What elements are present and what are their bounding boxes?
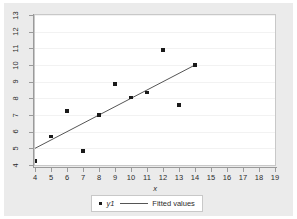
x-axis-tick-label: 4 <box>27 173 43 182</box>
x-axis-tick <box>99 168 100 172</box>
x-axis-tick-label: 13 <box>171 173 187 182</box>
data-point <box>161 48 164 51</box>
x-axis-tick-label: 12 <box>155 173 171 182</box>
x-axis-tick <box>131 168 132 172</box>
x-axis-tick-label: 18 <box>251 173 267 182</box>
fitted-values-line <box>35 65 195 148</box>
x-axis-tick-label: 8 <box>91 173 107 182</box>
x-axis-tick-label: 9 <box>107 173 123 182</box>
x-axis-tick <box>227 168 228 172</box>
data-point <box>177 103 180 106</box>
x-axis-tick-label: 7 <box>75 173 91 182</box>
gridline <box>35 165 275 166</box>
legend-entry-fitted-values[interactable]: Fitted values <box>120 199 195 208</box>
x-axis-tick <box>115 168 116 172</box>
x-axis-tick <box>51 168 52 172</box>
y-axis-tick <box>29 82 33 83</box>
y-axis-tick <box>29 115 33 116</box>
data-point <box>65 109 68 112</box>
data-point <box>145 91 148 94</box>
x-axis-tick-label: 15 <box>203 173 219 182</box>
data-point <box>193 63 196 66</box>
x-axis-tick <box>67 168 68 172</box>
legend-label-fitted-values: Fitted values <box>152 199 195 208</box>
legend-marker-icon <box>99 202 102 205</box>
x-axis-title: x <box>33 184 277 193</box>
x-axis-tick-label: 10 <box>123 173 139 182</box>
x-axis-tick-label: 11 <box>139 173 155 182</box>
x-axis-tick <box>179 168 180 172</box>
data-point <box>113 82 116 85</box>
legend-entry-y1[interactable]: y1 <box>99 199 114 208</box>
x-axis-tick <box>211 168 212 172</box>
fitted-line-layer <box>35 15 275 165</box>
data-point <box>34 159 37 162</box>
y-axis-line <box>33 14 34 167</box>
x-axis-tick <box>35 168 36 172</box>
y-axis-tick <box>29 65 33 66</box>
y-axis-tick <box>29 48 33 49</box>
x-axis-tick-label: 6 <box>59 173 75 182</box>
y-axis-tick <box>29 98 33 99</box>
x-axis-tick <box>259 168 260 172</box>
chart-legend: y1 Fitted values <box>91 195 203 212</box>
x-axis-tick <box>147 168 148 172</box>
x-axis-tick <box>163 168 164 172</box>
data-point <box>97 113 100 116</box>
data-point <box>129 96 132 99</box>
plot-region <box>34 14 276 166</box>
x-axis-tick-label: 19 <box>267 173 283 182</box>
x-axis-tick <box>83 168 84 172</box>
legend-label-y1: y1 <box>106 199 114 208</box>
x-axis-tick <box>195 168 196 172</box>
x-axis-tick-label: 16 <box>219 173 235 182</box>
x-axis-line <box>33 167 277 168</box>
x-axis-tick <box>243 168 244 172</box>
y-axis-tick-label: 13 <box>11 4 20 26</box>
data-point <box>49 135 52 138</box>
x-axis-tick <box>275 168 276 172</box>
x-axis-tick-label: 5 <box>43 173 59 182</box>
x-axis-tick-label: 17 <box>235 173 251 182</box>
legend-line-icon <box>120 203 148 204</box>
x-axis-tick-label: 14 <box>187 173 203 182</box>
y-axis-tick <box>29 15 33 16</box>
data-point <box>81 149 84 152</box>
graph-canvas: 45678910111213 4567891011121314151617181… <box>4 3 293 216</box>
y-axis-tick <box>29 148 33 149</box>
y-axis-tick <box>29 32 33 33</box>
y-axis-tick <box>29 132 33 133</box>
y-axis-tick <box>29 165 33 166</box>
